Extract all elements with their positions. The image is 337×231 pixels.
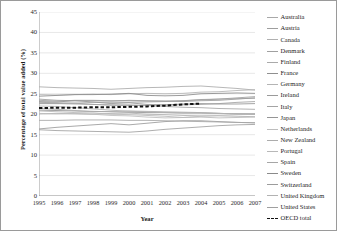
- x-tick-label: 2000: [123, 199, 136, 206]
- legend-line-icon: [267, 95, 278, 96]
- legend-item[interactable]: Denmark: [267, 45, 305, 56]
- chart-figure: Percentage of total value added (%) 0510…: [0, 0, 337, 231]
- legend-item[interactable]: France: [267, 68, 298, 79]
- legend-item[interactable]: Finland: [267, 57, 300, 68]
- x-axis-tick-labels: 1995199619971998199920002001200220032004…: [39, 199, 255, 211]
- x-tick-label: 1996: [51, 199, 64, 206]
- legend-line-icon: [267, 129, 278, 130]
- y-tick-label: 45: [30, 9, 37, 16]
- y-tick-label: 35: [30, 50, 37, 57]
- legend-line-icon: [267, 195, 278, 196]
- legend-dashed-line-icon: [267, 218, 278, 219]
- legend-item[interactable]: Germany: [267, 79, 305, 90]
- legend-line-icon: [267, 151, 278, 152]
- legend-label: New Zealand: [281, 137, 316, 144]
- legend-item[interactable]: New Zealand: [267, 135, 315, 146]
- legend-label: United States: [281, 204, 316, 211]
- legend-line-icon: [267, 184, 278, 185]
- legend-line-icon: [267, 62, 278, 63]
- x-tick-label: 2007: [249, 199, 262, 206]
- legend-label: Netherlands: [281, 126, 312, 133]
- y-tick-label: 25: [30, 90, 37, 97]
- legend-label: Austria: [281, 25, 300, 32]
- y-tick-label: 15: [30, 131, 37, 138]
- legend-item[interactable]: Australia: [267, 12, 304, 23]
- legend-line-icon: [267, 28, 278, 29]
- plot-area-container: Percentage of total value added (%) 0510…: [1, 1, 263, 231]
- legend-item[interactable]: Austria: [267, 23, 300, 34]
- chart-legend: AustraliaAustriaCanadaDenmarkFinlandFran…: [267, 12, 337, 224]
- legend-item[interactable]: Portugal: [267, 146, 303, 157]
- legend-line-icon: [267, 117, 278, 118]
- data-series-lines: [39, 86, 255, 132]
- legend-line-icon: [267, 162, 278, 163]
- legend-label: France: [281, 70, 299, 77]
- legend-line-icon: [267, 17, 278, 18]
- legend-item[interactable]: Spain: [267, 157, 295, 168]
- x-tick-label: 2004: [195, 199, 208, 206]
- legend-label: Switzerland: [281, 182, 312, 189]
- legend-label: Sweden: [281, 170, 302, 177]
- series-svg: [39, 12, 255, 196]
- legend-label: Japan: [281, 115, 296, 122]
- x-tick-label: 1997: [69, 199, 82, 206]
- y-tick-label: 10: [30, 152, 37, 159]
- legend-item[interactable]: Ireland: [267, 90, 299, 101]
- legend-item[interactable]: Sweden: [267, 168, 301, 179]
- legend-item[interactable]: OECD total: [267, 213, 311, 224]
- legend-item[interactable]: Netherlands: [267, 124, 312, 135]
- legend-label: Portugal: [281, 148, 303, 155]
- legend-item[interactable]: Japan: [267, 112, 295, 123]
- legend-label: Canada: [281, 37, 301, 44]
- x-tick-label: 2005: [213, 199, 226, 206]
- plot-canvas: [39, 12, 255, 196]
- legend-label: Australia: [281, 14, 305, 21]
- x-tick-label: 1998: [87, 199, 100, 206]
- legend-line-icon: [267, 140, 278, 141]
- legend-item[interactable]: Switzerland: [267, 179, 312, 190]
- legend-line-icon: [267, 39, 278, 40]
- legend-label: OECD total: [281, 215, 312, 222]
- legend-label: United Kingdom: [281, 193, 325, 200]
- legend-label: Italy: [281, 104, 293, 111]
- y-tick-label: 30: [30, 70, 37, 77]
- x-tick-label: 2006: [231, 199, 244, 206]
- legend-item[interactable]: United Kingdom: [267, 190, 324, 201]
- legend-item[interactable]: Canada: [267, 34, 300, 45]
- legend-line-icon: [267, 51, 278, 52]
- x-axis-label: Year: [39, 215, 255, 222]
- y-tick-label: 40: [30, 29, 37, 36]
- legend-line-icon: [267, 73, 278, 74]
- y-tick-label: 5: [34, 172, 37, 179]
- y-tick-label: 20: [30, 111, 37, 118]
- legend-item[interactable]: United States: [267, 202, 315, 213]
- legend-label: Germany: [281, 81, 305, 88]
- legend-item[interactable]: Italy: [267, 101, 292, 112]
- legend-line-icon: [267, 84, 278, 85]
- x-tick-label: 2002: [159, 199, 172, 206]
- legend-line-icon: [267, 106, 278, 107]
- x-tick-label: 1995: [33, 199, 46, 206]
- x-tick-label: 2001: [141, 199, 154, 206]
- legend-line-icon: [267, 173, 278, 174]
- y-axis-tick-labels: 051015202530354045: [19, 1, 37, 231]
- legend-line-icon: [267, 207, 278, 208]
- x-tick-label: 1999: [105, 199, 118, 206]
- x-tick-label: 2003: [177, 199, 190, 206]
- legend-label: Spain: [281, 159, 296, 166]
- legend-label: Finland: [281, 59, 301, 66]
- legend-label: Ireland: [281, 92, 299, 99]
- legend-label: Denmark: [281, 48, 305, 55]
